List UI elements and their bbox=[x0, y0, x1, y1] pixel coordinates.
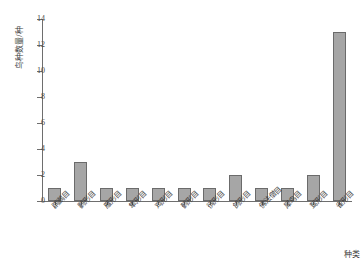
y-tick-label: 0 bbox=[15, 196, 45, 205]
bar-chart: 鸟种数量/种 02468101214 䴙䴘目鹳形目雁形目隼形目鸡形目鹤形目鸻形目… bbox=[0, 0, 364, 261]
y-tick-label: 12 bbox=[15, 40, 45, 49]
bar bbox=[333, 32, 346, 201]
y-tick-label: 2 bbox=[15, 170, 45, 179]
y-tick-label: 10 bbox=[15, 66, 45, 75]
plot-area: 02468101214 bbox=[42, 19, 352, 201]
y-tick-label: 8 bbox=[15, 92, 45, 101]
x-axis-labels: 䴙䴘目鹳形目雁形目隼形目鸡形目鹤形目鸻形目鸽形目佛法僧目犀鸟目䴕形目雀形目 bbox=[42, 203, 352, 248]
y-tick-label: 4 bbox=[15, 144, 45, 153]
y-tick-label: 14 bbox=[15, 14, 45, 23]
y-tick-label: 6 bbox=[15, 118, 45, 127]
bar-series bbox=[42, 19, 352, 201]
x-axis-title: 种类 bbox=[344, 248, 360, 259]
